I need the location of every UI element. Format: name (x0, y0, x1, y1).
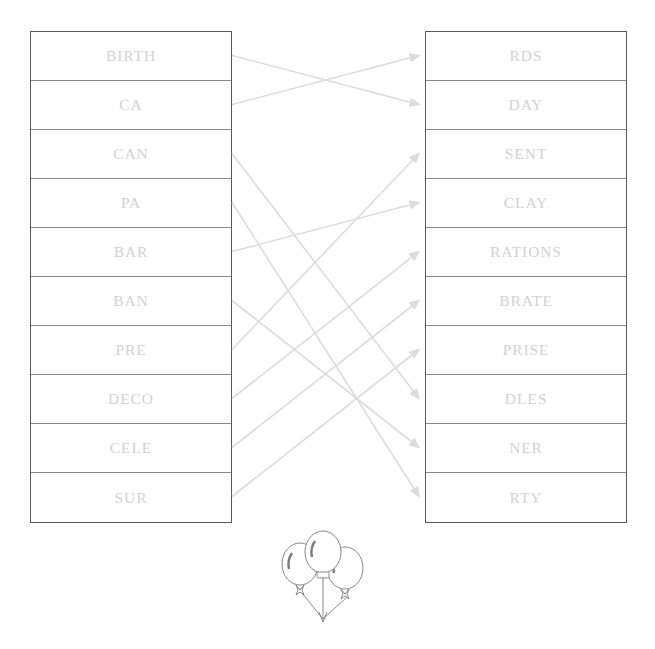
left-cell-3[interactable]: PA (31, 179, 231, 228)
left-cell-label-0: BIRTH (106, 47, 156, 65)
left-cell-9[interactable]: SUR (31, 473, 231, 522)
left-cell-label-8: CELE (110, 439, 152, 457)
left-cell-2[interactable]: CAN (31, 130, 231, 179)
puzzle-canvas: BIRTH CA CAN PA BAR BAN PRE DECO CELE SU… (0, 0, 655, 649)
left-cell-label-3: PA (121, 194, 141, 212)
right-cell-label-5: BRATE (499, 292, 553, 310)
left-cell-4[interactable]: BAR (31, 228, 231, 277)
left-cell-label-5: BAN (113, 292, 148, 310)
left-column: BIRTH CA CAN PA BAR BAN PRE DECO CELE SU… (30, 31, 232, 523)
right-cell-9[interactable]: RTY (426, 473, 626, 522)
right-cell-6[interactable]: PRISE (426, 326, 626, 375)
left-cell-0[interactable]: BIRTH (31, 32, 231, 81)
left-cell-1[interactable]: CA (31, 81, 231, 130)
right-cell-1[interactable]: DAY (426, 81, 626, 130)
left-cell-label-1: CA (119, 96, 142, 114)
right-cell-label-0: RDS (510, 47, 543, 65)
connector-line (232, 56, 419, 105)
connector-line (232, 350, 419, 497)
connector-line (232, 252, 419, 399)
right-cell-5[interactable]: BRATE (426, 277, 626, 326)
right-cell-4[interactable]: RATIONS (426, 228, 626, 277)
connector-line (232, 203, 419, 252)
connector-line (232, 154, 419, 399)
connector-line (232, 154, 419, 350)
right-column: RDS DAY SENT CLAY RATIONS BRATE PRISE DL… (425, 31, 627, 523)
connector-line (232, 203, 419, 497)
left-cell-5[interactable]: BAN (31, 277, 231, 326)
left-cell-8[interactable]: CELE (31, 424, 231, 473)
right-cell-0[interactable]: RDS (426, 32, 626, 81)
connector-line (232, 301, 419, 448)
right-cell-3[interactable]: CLAY (426, 179, 626, 228)
right-cell-label-3: CLAY (504, 194, 548, 212)
left-cell-label-9: SUR (115, 489, 148, 507)
left-cell-label-6: PRE (115, 341, 146, 359)
right-cell-8[interactable]: NER (426, 424, 626, 473)
right-cell-label-4: RATIONS (490, 243, 562, 261)
right-cell-label-8: NER (509, 439, 543, 457)
right-cell-label-2: SENT (505, 145, 547, 163)
left-cell-6[interactable]: PRE (31, 326, 231, 375)
left-cell-label-4: BAR (114, 243, 149, 261)
balloons-illustration (278, 527, 368, 624)
left-cell-7[interactable]: DECO (31, 375, 231, 424)
right-cell-label-7: DLES (505, 390, 547, 408)
connector-line (232, 301, 419, 448)
right-cell-label-6: PRISE (503, 341, 550, 359)
right-cell-7[interactable]: DLES (426, 375, 626, 424)
right-cell-label-9: RTY (510, 489, 543, 507)
left-cell-label-7: DECO (108, 390, 154, 408)
right-cell-2[interactable]: SENT (426, 130, 626, 179)
left-cell-label-2: CAN (113, 145, 148, 163)
connector-line (232, 56, 419, 105)
right-cell-label-1: DAY (509, 96, 544, 114)
